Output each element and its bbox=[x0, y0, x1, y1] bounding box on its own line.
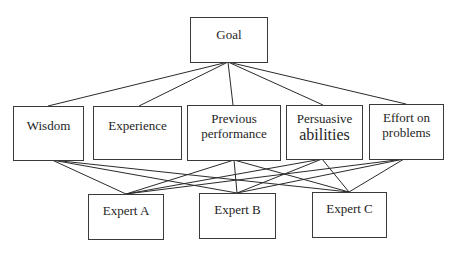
goal-node: Goal bbox=[190, 17, 268, 63]
criterion-effort-on-problems: Effort on problems bbox=[369, 104, 444, 160]
alternative-label: Expert B bbox=[200, 202, 275, 217]
alternative-label: Expert A bbox=[89, 203, 163, 218]
goal-label: Goal bbox=[191, 27, 267, 42]
criterion-label-line2: problems bbox=[370, 125, 443, 140]
goal-criteria-edges bbox=[48, 62, 406, 106]
criteria-alternative-edges bbox=[52, 159, 404, 194]
alternative-label: Expert C bbox=[313, 201, 386, 216]
criterion-previous-performance: Previous performance bbox=[187, 105, 281, 161]
criterion-label: Wisdom bbox=[14, 118, 83, 133]
criterion-wisdom: Wisdom bbox=[13, 106, 84, 161]
criterion-experience: Experience bbox=[93, 106, 182, 160]
criterion-label-line1: Effort on bbox=[370, 110, 443, 125]
criterion-label-line1: Previous bbox=[188, 111, 280, 126]
criterion-label-line1: Persuasive bbox=[287, 111, 362, 126]
criterion-label-line2: abilities bbox=[287, 126, 362, 144]
criterion-persuasive-abilities: Persuasive abilities bbox=[286, 105, 363, 160]
alternative-expert-b: Expert B bbox=[199, 193, 276, 239]
criterion-label: Experience bbox=[94, 118, 181, 133]
criterion-label-line2: performance bbox=[188, 126, 280, 141]
alternative-expert-a: Expert A bbox=[88, 194, 164, 240]
alternative-expert-c: Expert C bbox=[312, 192, 387, 238]
